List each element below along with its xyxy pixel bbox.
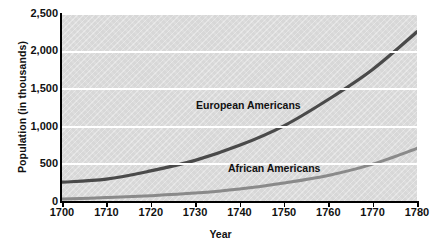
x-tick-label-1720: 1720	[128, 206, 174, 218]
x-tick-label-1740: 1740	[217, 206, 263, 218]
y-tick-label-500: 500	[2, 157, 58, 169]
x-tick-label-1700: 1700	[39, 206, 85, 218]
y-tick-label-1500: 1,500	[2, 82, 58, 94]
x-axis-title: Year	[0, 228, 441, 240]
x-tick-label-1710: 1710	[83, 206, 129, 218]
y-tick-label-2000: 2,000	[2, 44, 58, 56]
gridline-2000	[62, 51, 417, 53]
y-tick-label-2500: 2,500	[2, 7, 58, 19]
series-label-european-americans: European Americans	[196, 99, 301, 111]
y-tick-label-1000: 1,000	[2, 120, 58, 132]
x-tick-label-1760: 1760	[305, 206, 351, 218]
series-label-african-americans: African Americans	[228, 162, 320, 174]
gridline-1500	[62, 88, 417, 90]
x-tick-label-1730: 1730	[172, 206, 218, 218]
gridline-2500	[62, 13, 417, 15]
gridline-1000	[62, 126, 417, 128]
plot-area: European Americans African Americans	[62, 13, 417, 201]
population-growth-line-chart: Population (in thousands) 2,500 2,000 1,…	[0, 0, 441, 246]
y-axis-line	[60, 13, 62, 203]
x-tick-label-1770: 1770	[350, 206, 396, 218]
x-tick-label-1750: 1750	[261, 206, 307, 218]
x-tick-label-1780: 1780	[394, 206, 440, 218]
